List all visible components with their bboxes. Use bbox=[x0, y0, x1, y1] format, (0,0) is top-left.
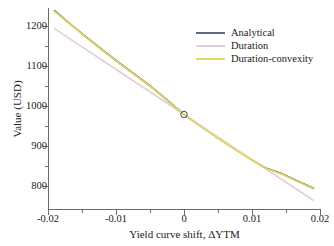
y-axis-title: Value (USD) bbox=[11, 49, 23, 169]
x-tick-label-0.01: 0.01 bbox=[222, 213, 282, 224]
x-tick-minor-neg0.015 bbox=[82, 210, 83, 213]
legend-item-duration[interactable]: Duration bbox=[196, 40, 332, 52]
legend-label-duration: Duration bbox=[231, 40, 268, 51]
x-tick-minor-0.005 bbox=[218, 210, 219, 213]
y-tick-label-1200: 1200 bbox=[26, 21, 47, 31]
y-tick-label-1100: 1100 bbox=[26, 61, 47, 71]
legend-swatch-duration bbox=[196, 45, 225, 47]
y-tick-label-1000: 1000 bbox=[26, 101, 47, 111]
x-tick-minor-0.015 bbox=[286, 210, 287, 213]
legend-label-duration-convexity: Duration-convexity bbox=[231, 53, 313, 64]
x-axis-title: Yield curve shift, ΔYTM bbox=[48, 228, 321, 240]
x-tick-label-0.02: 0.02 bbox=[290, 213, 334, 224]
legend-item-duration-convexity[interactable]: Duration-convexity bbox=[196, 53, 332, 65]
legend-swatch-analytical bbox=[196, 32, 225, 34]
y-tick-label-800: 800 bbox=[31, 181, 47, 191]
legend: Analytical Duration Duration-convexity bbox=[196, 27, 332, 66]
x-tick-label-neg0.01: -0.01 bbox=[86, 213, 146, 224]
x-tick-label-0: 0 bbox=[154, 213, 214, 224]
legend-item-analytical[interactable]: Analytical bbox=[196, 27, 332, 39]
x-tick-minor-neg0.005 bbox=[150, 210, 151, 213]
legend-label-analytical: Analytical bbox=[231, 27, 275, 38]
x-tick-label-neg0.02: -0.02 bbox=[18, 213, 78, 224]
chart-figure: 1200 1100 1000 900 800 -0.02 -0.01 0 0.0… bbox=[0, 0, 334, 246]
y-tick-label-900: 900 bbox=[31, 141, 47, 151]
legend-swatch-duration-convexity bbox=[196, 58, 225, 60]
